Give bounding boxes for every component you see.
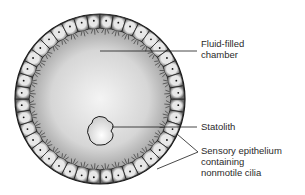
- cell-nucleus: [81, 174, 83, 176]
- cell-nucleus: [166, 139, 168, 141]
- cell-nucleus: [27, 68, 29, 70]
- label-line: containing: [201, 156, 282, 167]
- label-line: Fluid-filled: [201, 38, 244, 49]
- cell-nucleus: [69, 26, 71, 28]
- label-sensory-epithelium: Sensory epithelium containing nonmotile …: [201, 145, 282, 178]
- label-line: Statolith: [201, 121, 235, 132]
- cell-nucleus: [140, 165, 142, 167]
- fluid-filled-chamber: [30, 29, 170, 169]
- epithelial-cell: [87, 15, 100, 30]
- cell-nucleus: [175, 80, 177, 82]
- cell-nucleus: [117, 22, 119, 24]
- epithelial-cell: [100, 169, 113, 184]
- cell-nucleus: [166, 57, 168, 59]
- cell-nucleus: [177, 92, 179, 94]
- cell-nucleus: [140, 31, 142, 33]
- cell-nucleus: [48, 158, 50, 160]
- cell-nucleus: [150, 158, 152, 160]
- label-line: chamber: [201, 49, 244, 60]
- cell-nucleus: [150, 38, 152, 40]
- cell-nucleus: [93, 176, 95, 178]
- cell-nucleus: [58, 31, 60, 33]
- cell-nucleus: [32, 57, 34, 59]
- cell-nucleus: [39, 149, 41, 151]
- cell-nucleus: [172, 68, 174, 70]
- epithelial-cell: [170, 86, 185, 99]
- cell-nucleus: [117, 174, 119, 176]
- cell-nucleus: [21, 92, 23, 94]
- cell-nucleus: [105, 176, 107, 178]
- cell-nucleus: [27, 128, 29, 130]
- cell-nucleus: [58, 165, 60, 167]
- cell-nucleus: [69, 171, 71, 173]
- cell-nucleus: [32, 139, 34, 141]
- cell-nucleus: [105, 20, 107, 22]
- cell-nucleus: [48, 38, 50, 40]
- cell-nucleus: [129, 171, 131, 173]
- cell-nucleus: [93, 20, 95, 22]
- label-line: Sensory epithelium: [201, 145, 282, 156]
- epithelial-cell: [16, 99, 31, 112]
- cell-nucleus: [159, 47, 161, 49]
- cell-nucleus: [172, 128, 174, 130]
- cell-nucleus: [129, 26, 131, 28]
- cell-nucleus: [23, 80, 25, 82]
- label-fluid-filled-chamber: Fluid-filled chamber: [201, 38, 244, 60]
- label-statolith: Statolith: [201, 121, 235, 132]
- cell-nucleus: [39, 47, 41, 49]
- cell-nucleus: [159, 149, 161, 151]
- cell-nucleus: [23, 116, 25, 118]
- cell-nucleus: [21, 104, 23, 106]
- cell-nucleus: [175, 116, 177, 118]
- label-line: nonmotile cilia: [201, 167, 282, 178]
- cell-nucleus: [81, 22, 83, 24]
- cell-nucleus: [177, 104, 179, 106]
